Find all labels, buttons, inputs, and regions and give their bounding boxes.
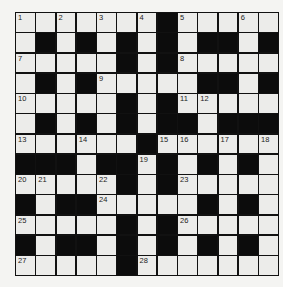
grid-cell[interactable]: 2 bbox=[57, 13, 76, 32]
grid-cell[interactable] bbox=[36, 94, 55, 113]
grid-cell[interactable] bbox=[57, 114, 76, 133]
grid-cell[interactable] bbox=[138, 33, 157, 52]
grid-cell[interactable] bbox=[158, 74, 177, 93]
grid-cell[interactable] bbox=[158, 256, 177, 275]
grid-cell[interactable]: 18 bbox=[259, 135, 278, 154]
grid-cell[interactable]: 24 bbox=[97, 195, 116, 214]
grid-cell[interactable] bbox=[239, 74, 258, 93]
grid-cell[interactable] bbox=[138, 216, 157, 235]
grid-cell[interactable] bbox=[219, 236, 238, 255]
grid-cell[interactable] bbox=[117, 135, 136, 154]
grid-cell[interactable] bbox=[77, 216, 96, 235]
grid-cell[interactable] bbox=[97, 114, 116, 133]
grid-cell[interactable] bbox=[117, 195, 136, 214]
grid-cell[interactable] bbox=[239, 175, 258, 194]
grid-cell[interactable]: 5 bbox=[178, 13, 197, 32]
grid-cell[interactable] bbox=[259, 256, 278, 275]
grid-cell[interactable] bbox=[198, 13, 217, 32]
grid-cell[interactable]: 8 bbox=[178, 54, 197, 73]
grid-cell[interactable] bbox=[57, 94, 76, 113]
grid-cell[interactable] bbox=[239, 135, 258, 154]
grid-cell[interactable] bbox=[219, 216, 238, 235]
grid-cell[interactable] bbox=[178, 155, 197, 174]
grid-cell[interactable] bbox=[219, 175, 238, 194]
grid-cell[interactable] bbox=[97, 236, 116, 255]
grid-cell[interactable] bbox=[36, 135, 55, 154]
grid-cell[interactable] bbox=[259, 13, 278, 32]
grid-cell[interactable] bbox=[138, 114, 157, 133]
grid-cell[interactable]: 19 bbox=[138, 155, 157, 174]
grid-cell[interactable]: 23 bbox=[178, 175, 197, 194]
grid-cell[interactable] bbox=[77, 94, 96, 113]
grid-cell[interactable] bbox=[16, 114, 35, 133]
grid-cell[interactable]: 1 bbox=[16, 13, 35, 32]
grid-cell[interactable] bbox=[77, 256, 96, 275]
grid-cell[interactable]: 16 bbox=[178, 135, 197, 154]
grid-cell[interactable] bbox=[97, 216, 116, 235]
grid-cell[interactable]: 3 bbox=[97, 13, 116, 32]
grid-cell[interactable]: 28 bbox=[138, 256, 157, 275]
grid-cell[interactable] bbox=[57, 135, 76, 154]
grid-cell[interactable] bbox=[239, 216, 258, 235]
grid-cell[interactable] bbox=[97, 135, 116, 154]
grid-cell[interactable] bbox=[57, 256, 76, 275]
grid-cell[interactable]: 11 bbox=[178, 94, 197, 113]
grid-cell[interactable] bbox=[77, 54, 96, 73]
grid-cell[interactable] bbox=[219, 155, 238, 174]
grid-cell[interactable] bbox=[77, 13, 96, 32]
grid-cell[interactable] bbox=[36, 54, 55, 73]
grid-cell[interactable] bbox=[16, 33, 35, 52]
grid-cell[interactable] bbox=[178, 256, 197, 275]
grid-cell[interactable] bbox=[198, 114, 217, 133]
grid-cell[interactable] bbox=[239, 54, 258, 73]
grid-cell[interactable] bbox=[138, 195, 157, 214]
grid-cell[interactable] bbox=[178, 236, 197, 255]
grid-cell[interactable] bbox=[77, 155, 96, 174]
grid-cell[interactable]: 7 bbox=[16, 54, 35, 73]
grid-cell[interactable]: 13 bbox=[16, 135, 35, 154]
grid-cell[interactable]: 26 bbox=[178, 216, 197, 235]
grid-cell[interactable]: 4 bbox=[138, 13, 157, 32]
grid-cell[interactable] bbox=[57, 216, 76, 235]
grid-cell[interactable] bbox=[138, 236, 157, 255]
grid-cell[interactable] bbox=[219, 256, 238, 275]
grid-cell[interactable] bbox=[178, 195, 197, 214]
grid-cell[interactable] bbox=[97, 256, 116, 275]
grid-cell[interactable] bbox=[138, 94, 157, 113]
grid-cell[interactable]: 6 bbox=[239, 13, 258, 32]
grid-cell[interactable] bbox=[198, 54, 217, 73]
grid-cell[interactable] bbox=[259, 54, 278, 73]
grid-cell[interactable] bbox=[97, 33, 116, 52]
grid-cell[interactable] bbox=[36, 256, 55, 275]
grid-cell[interactable] bbox=[219, 13, 238, 32]
grid-cell[interactable] bbox=[198, 256, 217, 275]
grid-cell[interactable] bbox=[239, 94, 258, 113]
grid-cell[interactable] bbox=[198, 175, 217, 194]
grid-cell[interactable] bbox=[178, 74, 197, 93]
grid-cell[interactable] bbox=[16, 74, 35, 93]
grid-cell[interactable] bbox=[57, 33, 76, 52]
grid-cell[interactable] bbox=[239, 33, 258, 52]
grid-cell[interactable] bbox=[117, 13, 136, 32]
grid-cell[interactable] bbox=[138, 54, 157, 73]
grid-cell[interactable] bbox=[36, 13, 55, 32]
grid-cell[interactable] bbox=[36, 195, 55, 214]
grid-cell[interactable]: 9 bbox=[97, 74, 116, 93]
grid-cell[interactable] bbox=[36, 216, 55, 235]
grid-cell[interactable]: 20 bbox=[16, 175, 35, 194]
grid-cell[interactable]: 12 bbox=[198, 94, 217, 113]
grid-cell[interactable] bbox=[138, 175, 157, 194]
grid-cell[interactable] bbox=[259, 216, 278, 235]
grid-cell[interactable]: 10 bbox=[16, 94, 35, 113]
grid-cell[interactable] bbox=[36, 236, 55, 255]
grid-cell[interactable] bbox=[158, 195, 177, 214]
grid-cell[interactable]: 14 bbox=[77, 135, 96, 154]
grid-cell[interactable] bbox=[198, 135, 217, 154]
grid-cell[interactable] bbox=[198, 216, 217, 235]
grid-cell[interactable] bbox=[117, 74, 136, 93]
grid-cell[interactable] bbox=[219, 94, 238, 113]
grid-cell[interactable] bbox=[239, 256, 258, 275]
grid-cell[interactable] bbox=[259, 195, 278, 214]
grid-cell[interactable] bbox=[259, 94, 278, 113]
grid-cell[interactable] bbox=[57, 54, 76, 73]
